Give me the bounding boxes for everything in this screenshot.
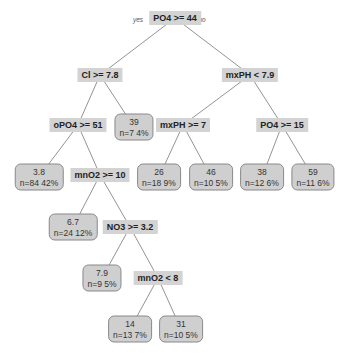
leaf-info: n=10 5%: [194, 178, 228, 189]
split-node: NO3 >= 3.2: [103, 220, 158, 234]
leaf-value: 6.7: [54, 217, 93, 228]
leaf-value: 31: [164, 319, 198, 330]
split-node: mxPH < 7.9: [222, 68, 278, 82]
leaf-node: 14n=13 7%: [108, 316, 152, 343]
leaf-info: n=10 5%: [164, 330, 198, 341]
leaf-node: 38n=12 6%: [240, 164, 284, 191]
split-node: oPO4 >= 51: [49, 118, 106, 132]
leaf-info: n=12 6%: [245, 178, 279, 189]
leaf-value: 14: [113, 319, 147, 330]
yes-branch-label: yes: [133, 16, 143, 23]
leaf-node: 26n=18 9%: [137, 164, 181, 191]
leaf-value: 39: [119, 117, 148, 128]
leaf-info: n=18 9%: [142, 178, 176, 189]
leaf-info: n=11 6%: [296, 178, 329, 189]
leaf-node: 46n=10 5%: [189, 164, 233, 191]
tree-edge: [100, 18, 175, 75]
leaf-info: n=84 42%: [20, 178, 59, 189]
leaf-node: 6.7n=24 12%: [49, 214, 98, 241]
leaf-info: n=9 5%: [87, 279, 116, 290]
tree-edge: [175, 18, 250, 75]
split-node: PO4 >= 44: [149, 11, 201, 25]
split-node: Cl >= 7.8: [77, 68, 122, 82]
leaf-value: 3.8: [20, 167, 59, 178]
leaf-node: 7.9n=9 5%: [82, 265, 121, 292]
leaf-node: 39n=7 4%: [114, 114, 153, 141]
split-node: mnO2 < 8: [134, 271, 183, 285]
split-node: PO4 >= 15: [256, 118, 308, 132]
leaf-info: n=24 12%: [54, 228, 93, 239]
leaf-value: 46: [194, 167, 228, 178]
leaf-value: 26: [142, 167, 176, 178]
leaf-value: 7.9: [87, 268, 116, 279]
leaf-node: 3.8n=84 42%: [15, 164, 64, 191]
leaf-info: n=7 4%: [119, 128, 148, 139]
leaf-info: n=13 7%: [113, 330, 147, 341]
split-node: mnO2 >= 10: [70, 168, 129, 182]
split-node: mxPH >= 7: [156, 118, 210, 132]
leaf-value: 59: [296, 167, 329, 178]
leaf-value: 38: [245, 167, 279, 178]
leaf-node: 31n=10 5%: [159, 316, 203, 343]
leaf-node: 59n=11 6%: [291, 164, 334, 191]
